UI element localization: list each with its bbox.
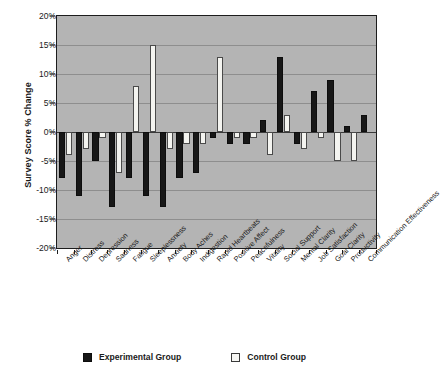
bar-experimental [92, 132, 98, 161]
bar-experimental [311, 91, 317, 132]
x-axis-tick-mark [74, 250, 75, 254]
x-axis-tick-mark [57, 250, 58, 254]
bar-experimental [76, 132, 82, 196]
x-axis-tick-mark [376, 250, 377, 254]
chart-legend: Experimental Group Control Group [0, 352, 389, 362]
legend-label-control: Control Group [247, 352, 306, 362]
bar-experimental [126, 132, 132, 178]
bar-experimental [260, 120, 266, 132]
x-axis-tick-mark [91, 250, 92, 254]
x-axis-tick-mark [258, 250, 259, 254]
x-axis-tick-mark [359, 250, 360, 254]
bar-experimental [361, 115, 367, 132]
legend-swatch-experimental-icon [83, 353, 92, 362]
bar-control [183, 132, 189, 144]
bar-control [250, 132, 256, 138]
bar-control [66, 132, 72, 155]
bar-experimental [109, 132, 115, 207]
bar-control [318, 132, 324, 138]
x-axis-tick-mark [208, 250, 209, 254]
x-axis-tick-mark [141, 250, 142, 254]
bar-control [234, 132, 240, 138]
legend-swatch-control-icon [231, 353, 240, 362]
legend-item-experimental: Experimental Group [83, 352, 181, 362]
x-axis-tick-mark [326, 250, 327, 254]
bar-experimental [294, 132, 300, 144]
bar-control [334, 132, 340, 161]
bar-control [83, 132, 89, 149]
bar-experimental [160, 132, 166, 207]
x-axis-tick-mark [124, 250, 125, 254]
x-axis-tick-mark [275, 250, 276, 254]
x-axis-tick-mark [107, 250, 108, 254]
bar-experimental [210, 132, 216, 138]
bar-control [116, 132, 122, 173]
x-axis-tick-mark [242, 250, 243, 254]
x-axis-tick-mark [175, 250, 176, 254]
bar-control [267, 132, 273, 155]
bar-control [150, 45, 156, 132]
bar-control [301, 132, 307, 149]
bar-experimental [143, 132, 149, 196]
bar-control [217, 57, 223, 132]
x-axis-tick-mark [158, 250, 159, 254]
bar-experimental [243, 132, 249, 144]
bar-control [351, 132, 357, 161]
bar-control [133, 86, 139, 132]
bar-experimental [277, 57, 283, 132]
bar-experimental [327, 80, 333, 132]
bar-experimental [193, 132, 199, 173]
x-axis-tick-mark [342, 250, 343, 254]
x-axis-tick-mark [191, 250, 192, 254]
bar-experimental [344, 126, 350, 132]
bar-control [99, 132, 105, 138]
bar-experimental [59, 132, 65, 178]
legend-item-control: Control Group [231, 352, 306, 362]
x-axis-tick-mark [292, 250, 293, 254]
bar-experimental [176, 132, 182, 178]
bar-control [284, 115, 290, 132]
bar-control [167, 132, 173, 149]
legend-label-experimental: Experimental Group [99, 352, 181, 362]
x-axis-tick-mark [225, 250, 226, 254]
x-axis-label: Communication Effectiveness [366, 189, 441, 264]
bar-experimental [227, 132, 233, 144]
x-axis-tick-mark [309, 250, 310, 254]
bar-control [200, 132, 206, 144]
